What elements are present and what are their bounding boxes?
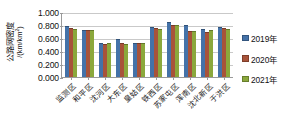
legend-label: 2019年: [251, 32, 277, 44]
y-axis-tick-label: 0.000: [38, 73, 59, 83]
bar-cap: [124, 44, 128, 45]
legend-item[interactable]: 2021年: [242, 73, 304, 85]
plot-area: 1.0000.8000.6000.4000.2000.000: [61, 13, 233, 78]
bar-group: [199, 13, 216, 77]
bar-group: [182, 13, 199, 77]
bar[interactable]: [192, 31, 196, 77]
y-axis-tick-label: 0.400: [38, 47, 59, 57]
chart-figure: 公路网密度 /(km/km2) 1.0000.8000.6000.4000.20…: [0, 0, 306, 129]
bar-face: [175, 25, 179, 77]
bar-face: [124, 44, 128, 77]
bar[interactable]: [158, 29, 162, 77]
y-axis-title-line2: /(km/km2): [15, 22, 25, 62]
bar-cap: [65, 26, 69, 27]
legend-label: 2021年: [251, 73, 277, 85]
bar-group: [113, 13, 130, 77]
bar[interactable]: [90, 30, 94, 77]
bar-face: [73, 29, 77, 77]
bar-cap: [192, 31, 196, 32]
y-axis-unit-prefix: /(km/km: [15, 32, 24, 58]
bar-group: [96, 13, 113, 77]
legend-item[interactable]: 2019年: [242, 32, 304, 44]
y-axis-tick-label: 0.600: [38, 34, 59, 44]
bar-face: [209, 30, 213, 77]
bar-group: [79, 13, 96, 77]
x-axis-labels: 监测区和平区沈河区大东区皇姑区铁西区苏家屯区浑南区沈北新区于洪区: [61, 79, 233, 127]
bar[interactable]: [141, 43, 145, 77]
bar[interactable]: [226, 29, 230, 77]
bar-cap: [175, 25, 179, 26]
bar-cap: [116, 39, 120, 40]
bar-face: [107, 43, 111, 77]
y-axis-tick-label: 0.800: [38, 21, 59, 31]
legend-swatch: [242, 55, 249, 62]
bar-group: [147, 13, 164, 77]
bar[interactable]: [175, 25, 179, 77]
bar[interactable]: [73, 29, 77, 77]
bar-cap: [90, 30, 94, 31]
chart-legend: 2019年2020年2021年: [242, 32, 304, 94]
y-axis-tick-label: 0.200: [38, 60, 59, 70]
y-axis-tick-label: 1.000: [38, 8, 59, 18]
y-axis-unit-exponent: 2: [14, 29, 20, 32]
y-axis-title: 公路网密度 /(km/km2): [0, 0, 30, 84]
bar[interactable]: [209, 30, 213, 77]
bar-face: [141, 43, 145, 77]
bar-cap: [201, 29, 205, 30]
bar-face: [158, 29, 162, 77]
x-axis-label-cell: 于洪区: [216, 79, 233, 127]
y-axis-unit-suffix: ): [15, 26, 24, 28]
bar-group: [216, 13, 233, 77]
bar-cap: [226, 29, 230, 30]
bar-group: [165, 13, 182, 77]
bar-cap: [184, 25, 188, 26]
bar[interactable]: [107, 43, 111, 77]
bar-cap: [107, 43, 111, 44]
bar-face: [90, 30, 94, 77]
legend-swatch: [242, 35, 249, 42]
bar-cap: [209, 30, 213, 31]
bar-cap: [73, 29, 77, 30]
legend-label: 2020年: [251, 53, 277, 65]
bar-group: [130, 13, 147, 77]
bar-face: [192, 31, 196, 77]
bar-face: [226, 29, 230, 77]
bar-group: [62, 13, 79, 77]
legend-item[interactable]: 2020年: [242, 53, 304, 65]
bar[interactable]: [124, 44, 128, 77]
legend-swatch: [242, 76, 249, 83]
bar-cap: [141, 43, 145, 44]
bar-cap: [158, 29, 162, 30]
bar-cap: [167, 22, 171, 23]
bar-groups: [62, 13, 233, 77]
